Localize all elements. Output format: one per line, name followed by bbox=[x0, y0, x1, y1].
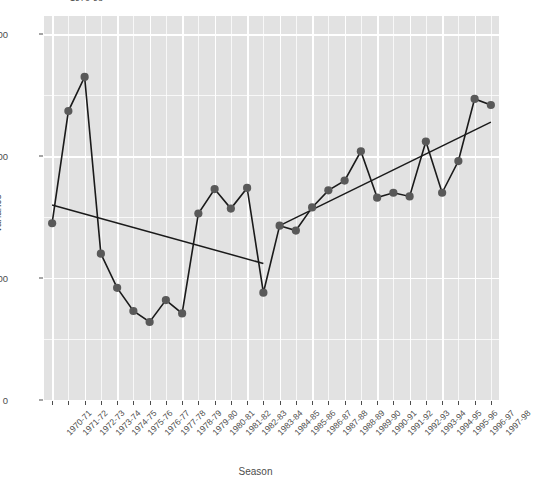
data-point bbox=[292, 226, 300, 234]
data-point bbox=[243, 184, 251, 192]
data-point bbox=[276, 222, 284, 230]
data-point bbox=[406, 192, 414, 200]
data-point bbox=[162, 296, 170, 304]
data-point bbox=[113, 284, 121, 292]
trend-line bbox=[52, 205, 263, 264]
data-point bbox=[211, 185, 219, 193]
data-point bbox=[324, 186, 332, 194]
data-point bbox=[227, 205, 235, 213]
x-axis-title: Season bbox=[0, 466, 511, 477]
data-point bbox=[341, 176, 349, 184]
data-point bbox=[48, 219, 56, 227]
data-point bbox=[422, 137, 430, 145]
data-point bbox=[81, 73, 89, 81]
data-point bbox=[64, 107, 72, 115]
data-point bbox=[471, 95, 479, 103]
data-point bbox=[438, 189, 446, 197]
data-point bbox=[259, 289, 267, 297]
data-point bbox=[194, 209, 202, 217]
y-axis-title: Variance bbox=[0, 194, 3, 233]
data-point bbox=[389, 189, 397, 197]
data-point bbox=[487, 101, 495, 109]
data-point bbox=[357, 147, 365, 155]
data-point bbox=[454, 157, 462, 165]
data-point bbox=[146, 318, 154, 326]
data-point bbox=[308, 203, 316, 211]
data-point bbox=[97, 250, 105, 258]
data-point bbox=[373, 194, 381, 202]
data-point bbox=[129, 307, 137, 315]
data-point bbox=[178, 309, 186, 317]
